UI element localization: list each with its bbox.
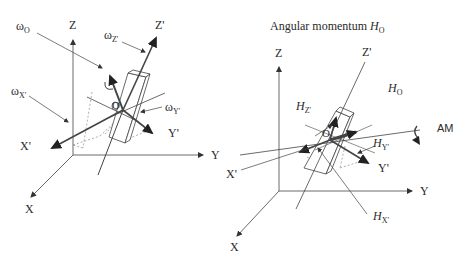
label-h-y: HY'	[373, 137, 389, 152]
label-right-axis-z: Z	[275, 47, 282, 59]
left-axis-x	[31, 155, 73, 197]
label-right-origin: O	[322, 128, 330, 139]
label-right-axis-x-prime: X'	[226, 168, 237, 180]
figure: ωO Z Z' ωZ' ωX' ωY' O X' Y' Y X Angular …	[0, 0, 461, 261]
label-h-x: HX'	[373, 210, 389, 225]
label-am: AM	[437, 123, 454, 134]
diagram-lines	[0, 0, 461, 261]
label-h-z: HZ'	[296, 100, 311, 115]
omega-o-leader	[37, 33, 102, 68]
label-omega-x: ωX'	[11, 85, 26, 100]
omega-x-leader	[29, 96, 68, 122]
label-left-axis-z-prime: Z'	[155, 19, 165, 31]
label-right-axis-x: X	[230, 241, 239, 253]
label-right-axis-y-prime: Y'	[378, 162, 389, 174]
right-panel-title: Angular momentum HO	[270, 20, 384, 35]
label-left-axis-y: Y	[211, 149, 220, 161]
label-omega-z: ωZ'	[104, 29, 118, 44]
label-left-axis-x: X	[25, 203, 34, 215]
label-omega-o: ωO	[16, 20, 30, 35]
label-left-axis-y-prime: Y'	[168, 127, 179, 139]
label-right-axis-y: Y	[420, 185, 429, 197]
label-left-axis-z: Z	[69, 19, 76, 31]
right-axis-x	[237, 191, 279, 236]
label-h-o: HO	[388, 82, 402, 97]
label-right-axis-z-prime: Z'	[362, 46, 372, 58]
omega-z-leader	[122, 42, 145, 52]
omega-y-leader	[141, 107, 162, 112]
label-omega-y: ωY'	[165, 101, 180, 116]
left-spin-axis-lower	[98, 110, 123, 175]
label-left-axis-x-prime: X'	[20, 140, 31, 152]
label-left-origin: O	[112, 100, 120, 111]
